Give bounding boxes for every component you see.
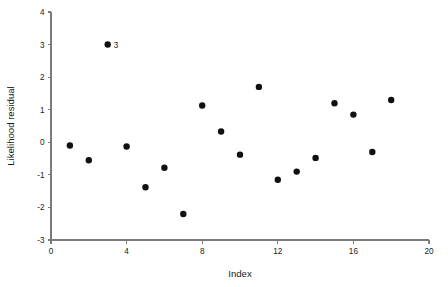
annotations-layer: 3 — [114, 41, 119, 50]
data-point — [180, 211, 186, 217]
y-axis-title: Likelihood residual — [5, 86, 16, 165]
plot-canvas: -3-2-101234 048121620 3 Index Likelihood… — [0, 0, 448, 287]
data-point — [275, 177, 281, 183]
data-point — [388, 97, 394, 103]
data-point — [218, 128, 224, 134]
y-tick-label: 0 — [40, 138, 45, 147]
data-point — [123, 143, 129, 149]
x-tick-label: 20 — [424, 247, 434, 256]
x-tick-label: 16 — [349, 247, 359, 256]
data-point — [350, 111, 356, 117]
y-tick-label: -2 — [37, 203, 45, 212]
data-point — [105, 41, 111, 47]
x-axis-title: Index — [228, 268, 252, 279]
data-points-layer — [67, 41, 395, 217]
y-tick-label: 1 — [40, 106, 45, 115]
data-point — [142, 184, 148, 190]
y-tick-label: 3 — [40, 41, 45, 50]
data-point — [294, 168, 300, 174]
data-point — [199, 102, 205, 108]
y-tick-label: 2 — [40, 73, 45, 82]
y-tick-label: 4 — [40, 8, 45, 17]
data-point — [312, 155, 318, 161]
y-tick-label: -1 — [37, 171, 45, 180]
x-tick-label: 4 — [124, 247, 129, 256]
x-axis: 048121620 — [49, 240, 434, 256]
data-point — [369, 149, 375, 155]
y-tick-label: -3 — [37, 236, 45, 245]
data-point — [67, 142, 73, 148]
point-label: 3 — [114, 41, 119, 50]
data-point — [161, 164, 167, 170]
data-point — [237, 151, 243, 157]
x-tick-label: 0 — [49, 247, 54, 256]
data-point — [331, 100, 337, 106]
y-axis: -3-2-101234 — [37, 8, 51, 245]
data-point — [86, 157, 92, 163]
scatter-plot-figure: -3-2-101234 048121620 3 Index Likelihood… — [0, 0, 448, 287]
x-tick-label: 12 — [273, 247, 283, 256]
x-tick-label: 8 — [200, 247, 205, 256]
data-point — [256, 84, 262, 90]
